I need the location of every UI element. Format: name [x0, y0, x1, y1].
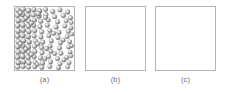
particle-sphere: [51, 31, 56, 36]
particle-sphere: [39, 45, 44, 50]
particle-sphere: [45, 23, 50, 28]
particle-sphere: [29, 52, 34, 57]
particle-sphere: [27, 39, 32, 44]
particle-sphere: [26, 34, 31, 39]
particle-sphere: [56, 35, 61, 40]
particle-sphere: [38, 56, 43, 61]
particle-sphere: [15, 28, 20, 33]
particle-sphere: [31, 13, 36, 18]
caption-panel-a: (a): [14, 75, 75, 85]
particle-sphere: [32, 33, 37, 38]
particle-sphere: [15, 23, 20, 28]
particle-sphere: [56, 65, 60, 69]
particle-sphere: [21, 59, 26, 64]
particle-sphere: [40, 61, 45, 66]
caption-panel-b: (b): [85, 75, 146, 85]
particle-sphere: [64, 18, 69, 23]
particle-sphere: [59, 51, 64, 56]
particle-sphere: [57, 46, 62, 51]
particle-sphere: [26, 8, 31, 13]
particle-sphere: [52, 14, 57, 19]
particle-sphere: [26, 65, 31, 70]
particle-sphere: [21, 28, 26, 33]
particle-sphere: [61, 13, 66, 18]
particle-sphere: [40, 50, 45, 55]
particle-sphere: [67, 60, 71, 64]
particle-sphere: [16, 18, 21, 23]
particle-sphere: [62, 58, 66, 62]
particle-sphere: [43, 7, 48, 12]
particle-sphere: [69, 44, 73, 48]
particle-sphere: [52, 51, 56, 55]
particle-sphere: [26, 60, 31, 65]
particle-sphere: [48, 60, 53, 65]
particle-sphere: [54, 25, 59, 30]
particle-layer-a: [15, 7, 74, 70]
particle-sphere: [57, 30, 62, 35]
particle-sphere: [26, 29, 31, 34]
particle-sphere: [20, 33, 25, 38]
panel-c: [155, 6, 216, 71]
particle-sphere: [21, 64, 26, 69]
particle-sphere: [20, 54, 25, 59]
particle-sphere: [15, 49, 20, 54]
particle-sphere: [29, 21, 34, 26]
particle-sphere: [39, 29, 44, 34]
particle-sphere: [39, 35, 44, 40]
particle-sphere: [69, 54, 73, 58]
particle-sphere: [15, 65, 20, 70]
panel-a: [14, 6, 75, 71]
particles-group: [15, 7, 74, 70]
particle-sphere: [15, 34, 20, 39]
particle-sphere: [24, 16, 29, 21]
particle-sphere: [35, 41, 40, 46]
particle-sphere: [50, 9, 55, 14]
particle-sphere: [43, 57, 47, 61]
particle-sphere: [69, 21, 73, 25]
particle-sphere: [62, 24, 67, 29]
particle-sphere: [32, 28, 37, 33]
particle-sphere: [40, 40, 45, 45]
particle-sphere: [32, 7, 37, 12]
particle-sphere: [47, 28, 52, 33]
caption-panel-c: (c): [155, 75, 216, 85]
particle-sphere: [58, 8, 63, 13]
particle-sphere: [47, 33, 52, 38]
particle-sphere: [16, 60, 21, 65]
particle-sphere: [49, 39, 54, 44]
particle-sphere: [35, 62, 39, 66]
particle-sphere: [40, 65, 45, 70]
particle-sphere: [61, 38, 65, 42]
particle-sphere: [67, 39, 71, 43]
particle-sphere: [43, 15, 48, 20]
particle-sphere: [38, 24, 43, 29]
particle-sphere: [36, 11, 41, 16]
particle-sphere: [38, 19, 43, 24]
particle-sphere: [18, 10, 23, 15]
particle-sphere: [70, 32, 74, 36]
particle-sphere: [44, 46, 49, 51]
panel-b: [85, 6, 146, 71]
particle-sphere: [65, 10, 70, 15]
particle-sphere: [24, 47, 29, 52]
particle-sphere: [15, 55, 20, 60]
particle-sphere: [55, 56, 60, 61]
figure-container: (a) (b) (c): [0, 0, 230, 93]
particle-sphere: [20, 22, 25, 27]
particle-sphere: [68, 15, 73, 20]
particle-sphere: [66, 65, 70, 69]
particle-sphere: [18, 42, 23, 47]
particle-sphere: [48, 64, 52, 68]
particle-sphere: [65, 34, 69, 38]
particle-sphere: [66, 29, 71, 34]
particle-sphere: [55, 20, 60, 25]
